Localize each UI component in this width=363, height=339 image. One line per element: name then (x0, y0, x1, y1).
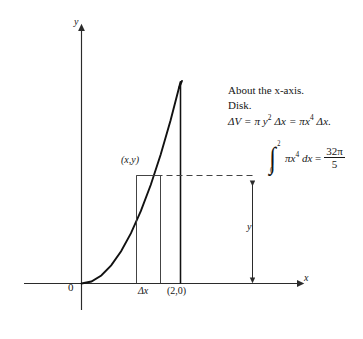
equals-sign: = (315, 152, 321, 164)
note-line-about-axis: About the x-axis. (228, 84, 331, 97)
integral-expression: ∫20 πx4 dx = 32π 5 (268, 143, 345, 173)
curve-y-equals-x-squared (82, 82, 181, 284)
note-line-delta-v-equation: ΔV = π y2 Δx = πx4 Δx. (228, 114, 331, 128)
label-point-xy: (x,y) (121, 154, 139, 166)
integral-sign: ∫20 (269, 143, 279, 173)
label-x-axis: x (304, 272, 308, 284)
label-y-axis: y (74, 16, 78, 28)
differential: dx (302, 152, 312, 164)
integrand-exponent: 4 (295, 150, 299, 159)
delta-v-end: Δx. (314, 115, 331, 127)
label-delta-x: Δx (138, 285, 148, 297)
label-point-2-0: (2,0) (167, 285, 186, 297)
result-denominator: 5 (324, 157, 345, 170)
delta-v-lhs: ΔV = π y (228, 115, 268, 127)
label-origin: 0 (68, 281, 74, 294)
result-fraction: 32π 5 (324, 146, 345, 171)
integral-lower-limit: 0 (270, 167, 273, 175)
integral-upper-limit: 2 (277, 140, 280, 148)
integral-body: πx4 dx = (285, 151, 321, 165)
delta-v-mid: Δx = πx (272, 115, 310, 127)
result-numerator: 32π (324, 146, 345, 158)
note-line-method: Disk. (228, 99, 331, 112)
figure-canvas: About the x-axis. Disk. ΔV = π y2 Δx = π… (0, 0, 363, 339)
integrand: πx (285, 152, 295, 164)
note-block: About the x-axis. Disk. ΔV = π y2 Δx = π… (228, 84, 331, 130)
label-height-y: y (247, 221, 251, 233)
